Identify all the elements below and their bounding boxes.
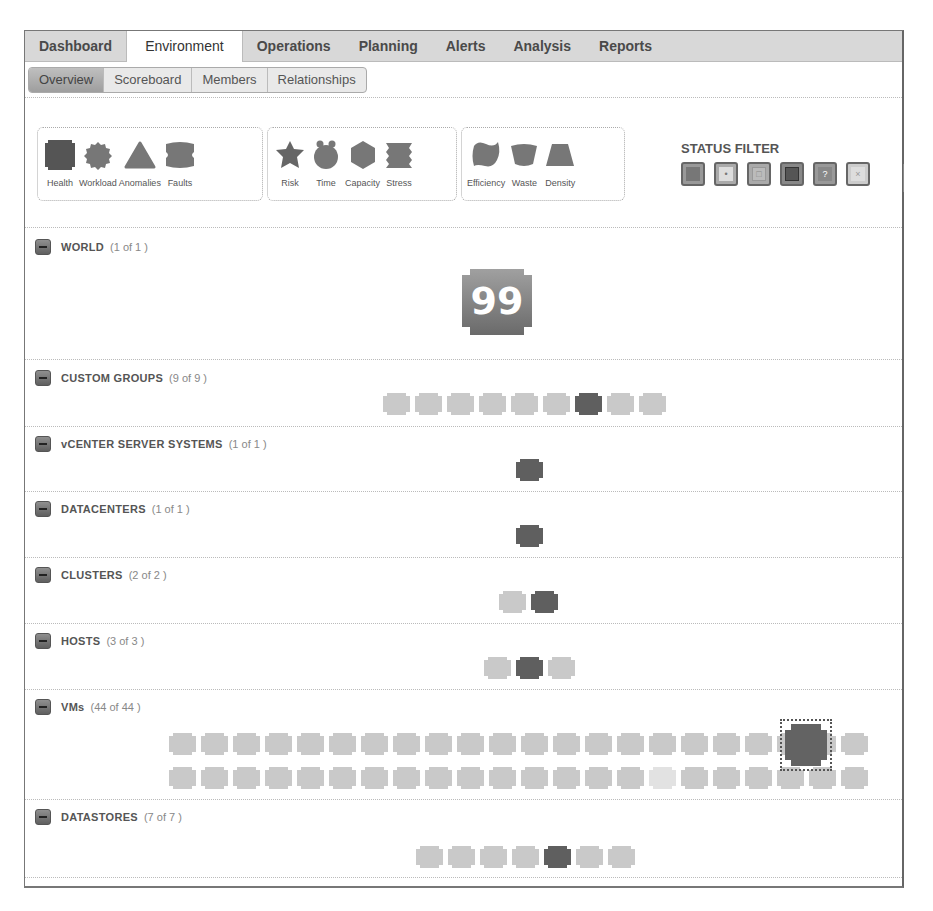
tab-alerts[interactable]: Alerts [432,31,500,61]
object-health-tile[interactable] [264,766,293,790]
subtab-relationships[interactable]: Relationships [268,68,366,92]
tab-planning[interactable]: Planning [345,31,432,61]
object-health-tile[interactable] [456,766,485,790]
object-health-tile[interactable] [446,392,475,416]
tab-reports[interactable]: Reports [585,31,666,61]
object-health-tile[interactable] [498,590,527,614]
object-health-tile[interactable] [264,732,293,756]
object-health-tile[interactable] [574,392,603,416]
object-health-tile[interactable] [648,732,677,756]
object-health-tile[interactable] [584,766,613,790]
object-health-tile[interactable] [520,732,549,756]
object-health-tile[interactable] [515,656,544,680]
object-health-tile[interactable] [530,590,559,614]
object-health-tile[interactable] [607,845,636,869]
badge-efficiency[interactable]: Efficiency [467,128,505,188]
object-health-tile[interactable] [424,732,453,756]
object-health-tile[interactable] [511,845,540,869]
badge-density[interactable]: Density [543,128,577,188]
object-health-tile[interactable] [616,766,645,790]
object-health-tile[interactable] [456,732,485,756]
selected-vm-tile[interactable] [780,719,832,771]
status-filter-yellow[interactable]: • [714,162,738,186]
object-health-tile[interactable] [510,392,539,416]
badge-health[interactable]: Health [43,128,77,188]
status-filter-offline[interactable]: × [846,162,870,186]
status-filter-orange[interactable]: □ [747,162,771,186]
object-health-tile[interactable] [415,845,444,869]
badge-workload[interactable]: Workload [79,128,117,188]
object-health-tile[interactable] [712,766,741,790]
collapse-button[interactable] [35,809,51,825]
object-health-tile[interactable] [168,732,197,756]
object-health-tile[interactable] [488,766,517,790]
status-filter-red[interactable] [780,162,804,186]
object-health-tile[interactable] [616,732,645,756]
object-health-tile[interactable] [392,732,421,756]
world-health-badge[interactable]: 99 [458,267,536,337]
object-health-tile[interactable] [584,732,613,756]
subtab-overview[interactable]: Overview [29,68,104,92]
collapse-button[interactable] [35,699,51,715]
collapse-button[interactable] [35,567,51,583]
object-health-tile[interactable] [744,732,773,756]
badge-stress[interactable]: Stress [382,128,416,188]
badge-time[interactable]: Time [309,128,343,188]
object-health-tile[interactable] [648,766,677,790]
object-health-tile[interactable] [680,766,709,790]
object-health-tile[interactable] [515,524,544,548]
object-health-tile[interactable] [168,766,197,790]
object-health-tile[interactable] [328,766,357,790]
object-health-tile[interactable] [547,656,576,680]
object-health-tile[interactable] [382,392,411,416]
object-health-tile[interactable] [232,732,261,756]
collapse-button[interactable] [35,436,51,452]
collapse-button[interactable] [35,239,51,255]
object-health-tile[interactable] [479,845,508,869]
object-health-tile[interactable] [552,766,581,790]
subtab-scoreboard[interactable]: Scoreboard [104,68,192,92]
tab-dashboard[interactable]: Dashboard [25,31,126,61]
object-health-tile[interactable] [543,845,572,869]
object-health-tile[interactable] [712,732,741,756]
badge-waste[interactable]: Waste [507,128,541,188]
object-health-tile[interactable] [360,766,389,790]
object-health-tile[interactable] [232,766,261,790]
object-health-tile[interactable] [478,392,507,416]
object-health-tile[interactable] [296,766,325,790]
object-health-tile[interactable] [552,732,581,756]
object-health-tile[interactable] [200,766,229,790]
object-health-tile[interactable] [520,766,549,790]
object-health-tile[interactable] [840,766,869,790]
object-health-tile[interactable] [424,766,453,790]
object-health-tile[interactable] [200,732,229,756]
object-health-tile[interactable] [360,732,389,756]
object-health-tile[interactable] [606,392,635,416]
object-health-tile[interactable] [414,392,443,416]
badge-risk[interactable]: Risk [273,128,307,188]
object-health-tile[interactable] [447,845,476,869]
object-health-tile[interactable] [483,656,512,680]
object-health-tile[interactable] [638,392,667,416]
badge-faults[interactable]: Faults [163,128,197,188]
status-filter-green[interactable] [681,162,705,186]
collapse-button[interactable] [35,633,51,649]
badge-anomalies[interactable]: Anomalies [119,128,161,188]
object-health-tile[interactable] [542,392,571,416]
object-health-tile[interactable] [328,732,357,756]
tab-operations[interactable]: Operations [243,31,345,61]
object-health-tile[interactable] [515,458,544,482]
object-health-tile[interactable] [575,845,604,869]
object-health-tile[interactable] [744,766,773,790]
subtab-members[interactable]: Members [192,68,267,92]
collapse-button[interactable] [35,501,51,517]
tab-environment[interactable]: Environment [126,31,243,62]
object-health-tile[interactable] [392,766,421,790]
collapse-button[interactable] [35,370,51,386]
badge-capacity[interactable]: Capacity [345,128,380,188]
object-health-tile[interactable] [680,732,709,756]
object-health-tile[interactable] [296,732,325,756]
object-health-tile[interactable] [488,732,517,756]
object-health-tile[interactable] [840,732,869,756]
tab-analysis[interactable]: Analysis [499,31,585,61]
